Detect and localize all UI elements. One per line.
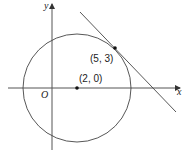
origin-label: O: [41, 89, 48, 100]
diagram: y x O (2, 0) (5, 3): [0, 0, 186, 154]
center-label: (2, 0): [79, 73, 102, 84]
y-axis-label: y: [43, 0, 49, 11]
x-axis-label: x: [176, 86, 182, 97]
tangent-point-label: (5, 3): [90, 53, 113, 64]
center-point: [75, 86, 79, 90]
tangent-point: [113, 46, 117, 50]
